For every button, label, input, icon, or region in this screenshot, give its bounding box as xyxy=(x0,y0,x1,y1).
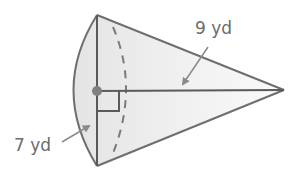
cone-diagram: 9 yd 7 yd xyxy=(0,0,288,190)
cone-figure xyxy=(0,0,288,190)
center-dot xyxy=(92,86,102,96)
height-line xyxy=(97,90,284,91)
radius-label: 7 yd xyxy=(14,137,51,154)
slant-height-label: 9 yd xyxy=(195,20,232,37)
